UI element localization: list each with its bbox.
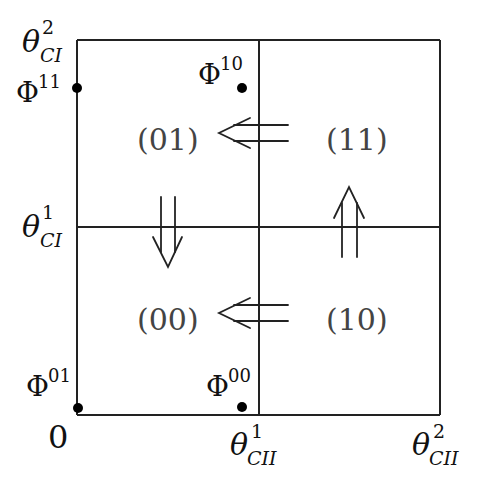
y-tick-label-1: θ 1 CI [22, 201, 63, 251]
x-tick-2-base: θ [412, 427, 430, 462]
phi-11-sup: 11 [38, 71, 61, 92]
phi-11-base: Φ [16, 76, 39, 109]
frame [77, 40, 440, 415]
y-tick-label-2: θ 2 CI [22, 16, 63, 66]
region-label-00: (00) [137, 302, 199, 337]
phi-10-base: Φ [198, 58, 221, 91]
fixed-point-11 [72, 83, 82, 93]
x-tick-2-sub: CII [429, 447, 459, 469]
fixed-point-01 [73, 403, 83, 413]
y-tick-2-sub: CI [40, 44, 63, 66]
x-tick-1-sub: CII [247, 447, 277, 469]
fixed-point-label-00: Φ 00 [206, 365, 251, 403]
x-tick-1-base: θ [230, 427, 248, 462]
fixed-point-label-10: Φ 10 [198, 53, 243, 91]
arrow-up-10-to-11 [334, 187, 364, 257]
phi-00-sup: 00 [228, 365, 251, 386]
x-tick-1-sup: 1 [251, 420, 263, 442]
arrow-left-11-to-01 [219, 118, 288, 148]
y-tick-1-base: θ [22, 209, 40, 244]
y-tick-1-sub: CI [40, 229, 63, 251]
phi-00-base: Φ [206, 370, 229, 403]
arrow-left-10-to-00 [219, 298, 288, 328]
phase-diagram: θ 2 CI θ 1 CI 0 θ 1 CII θ 2 CII (01) (11… [0, 0, 490, 478]
fixed-point-00 [237, 402, 247, 412]
x-tick-2-sup: 2 [433, 420, 445, 442]
phi-01-base: Φ [26, 370, 49, 403]
y-tick-2-sup: 2 [42, 16, 54, 38]
x-tick-label-1: θ 1 CII [230, 420, 277, 469]
region-label-11: (11) [326, 122, 388, 157]
x-tick-label-2: θ 2 CII [412, 420, 459, 469]
origin-label: 0 [48, 418, 68, 456]
region-label-01: (01) [137, 122, 199, 157]
arrow-down-01-to-00 [153, 197, 182, 267]
phi-01-sup: 01 [48, 365, 71, 386]
phi-10-sup: 10 [220, 53, 243, 74]
fixed-point-10 [237, 83, 247, 93]
fixed-point-label-01: Φ 01 [26, 365, 71, 403]
y-tick-2-base: θ [22, 24, 40, 59]
region-label-10: (10) [326, 302, 388, 337]
fixed-point-label-11: Φ 11 [16, 71, 61, 109]
y-tick-1-sup: 1 [42, 201, 54, 223]
